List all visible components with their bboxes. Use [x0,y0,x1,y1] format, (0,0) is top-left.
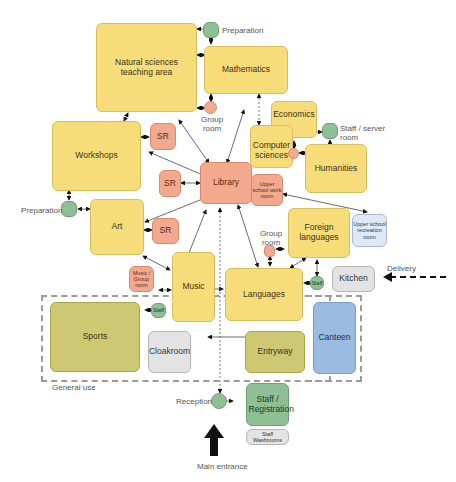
staff-server-room [322,123,338,139]
reception-label: Reception [176,397,212,406]
cloakroom-label: Cloakroom [149,347,190,357]
kitchen-label: Kitchen [339,274,367,284]
preparation-top-room [203,22,219,38]
diagram-canvas: Natural sciences teaching area Preparati… [0,0,456,482]
art-room: Art [90,199,144,255]
mathematics-label: Mathematics [222,65,270,75]
upper-school-work-room: Upper school work room [251,174,283,206]
upper-school-recreation-label: Upper school recreation room [353,221,386,240]
mathematics-room: Mathematics [204,46,288,94]
music-group-label: Music / Group room [130,270,153,289]
music-room: Music [172,252,215,322]
main-entrance-label: Main entrance [197,462,248,471]
staff-label: Staff [153,307,164,313]
music-group-room: Music / Group room [129,266,154,292]
group-room-economics [288,148,299,159]
preparation-top-label: Preparation [222,26,263,35]
economics-label: Economics [273,110,315,120]
languages-label: Languages [243,290,285,300]
staff-room-right: Staff [310,276,324,290]
sports-room: Sports [50,302,140,372]
group-room-top [204,101,217,114]
staff-registration-label: Staff / Registration [249,395,287,415]
computer-sciences-label: Computer sciences [251,141,292,161]
computer-sciences-room: Computer sciences [250,125,293,168]
reception-room [211,393,227,409]
sr-room-2: SR [159,170,181,197]
group-room-mid [264,245,275,257]
entryway-label: Entryway [258,347,293,357]
staff-washrooms-label: Staff Washrooms [247,431,288,444]
preparation-left-label: Preparation [21,206,62,215]
group-room-top-label: Group room [201,116,223,134]
natural-sciences-label: Natural sciences teaching area [112,58,182,78]
upper-school-work-label: Upper school work room [252,181,282,200]
library-label: Library [213,178,239,188]
humanities-label: Humanities [315,164,358,174]
art-label: Art [112,222,123,232]
canteen-label: Canteen [318,333,350,343]
workshops-label: Workshops [75,151,117,161]
upper-school-recreation-room: Upper school recreation room [352,214,387,247]
languages-room: Languages [225,268,303,321]
preparation-left-room [61,201,77,217]
canteen-room: Canteen [313,302,356,374]
sr-label: SR [157,132,169,142]
delivery-label: Delivery [387,264,416,273]
foreign-languages-room: Foreign languages [288,208,350,258]
entryway-room: Entryway [245,331,305,373]
staff-label: Staff [311,280,322,286]
cloakroom-room: Cloakroom [148,331,191,373]
foreign-languages-label: Foreign languages [289,223,349,243]
general-use-label: General use [52,383,96,392]
staff-server-label: Staff / server room [340,124,388,142]
staff-room-left: Staff [151,303,166,318]
kitchen-room: Kitchen [332,266,375,292]
natural-sciences-room: Natural sciences teaching area [96,23,197,112]
sr-label: SR [160,226,172,236]
music-label: Music [182,282,204,292]
staff-registration-room: Staff / Registration [246,383,289,426]
library-room: Library [200,162,252,204]
sr-room-1: SR [150,123,176,150]
workshops-room: Workshops [52,121,141,191]
sports-label: Sports [83,332,108,342]
humanities-room: Humanities [305,144,367,193]
staff-washrooms-room: Staff Washrooms [246,429,289,445]
sr-room-3: SR [152,218,179,244]
sr-label: SR [164,179,176,189]
